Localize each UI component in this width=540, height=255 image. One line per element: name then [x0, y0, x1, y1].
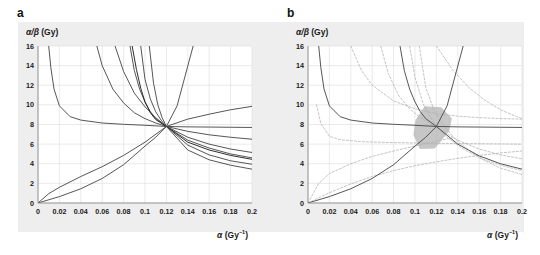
- x-tick-label: 0.18: [494, 207, 508, 216]
- x-tick-label: 0.12: [429, 207, 443, 216]
- y-tick-label: 0: [300, 199, 304, 208]
- y-tick-label: 8: [30, 120, 34, 129]
- panel-a: a α/β (Gy) α (Gy−1) 024681012141600.020.…: [0, 0, 270, 255]
- panel-b-plot: 024681012141600.020.040.060.080.10.120.1…: [270, 0, 540, 255]
- x-tick-label: 0.14: [181, 207, 195, 216]
- x-tick-label: 0: [36, 207, 40, 216]
- y-tick-label: 10: [26, 100, 34, 109]
- panel-a-plot: 024681012141600.020.040.060.080.10.120.1…: [0, 0, 270, 255]
- y-tick-label: 12: [296, 81, 304, 90]
- y-tick-label: 0: [30, 199, 34, 208]
- x-tick-label: 0.02: [52, 207, 66, 216]
- x-tick-label: 0.18: [224, 207, 238, 216]
- y-tick-label: 4: [300, 159, 304, 168]
- y-tick-label: 14: [26, 61, 34, 70]
- x-tick-label: 0.08: [387, 207, 401, 216]
- x-tick-label: 0.16: [472, 207, 486, 216]
- x-tick-label: 0.08: [117, 207, 131, 216]
- y-tick-label: 6: [300, 140, 304, 149]
- x-tick-label: 0.14: [451, 207, 465, 216]
- x-tick-label: 0.2: [247, 207, 257, 216]
- x-tick-label: 0.04: [344, 207, 358, 216]
- x-tick-label: 0.04: [74, 207, 88, 216]
- y-tick-label: 6: [30, 140, 34, 149]
- x-tick-label: 0.06: [95, 207, 109, 216]
- y-tick-label: 8: [300, 120, 304, 129]
- y-tick-label: 4: [30, 159, 34, 168]
- x-tick-label: 0: [306, 207, 310, 216]
- x-tick-label: 0.02: [322, 207, 336, 216]
- x-tick-label: 0.16: [202, 207, 216, 216]
- y-tick-label: 10: [296, 100, 304, 109]
- x-tick-label: 0.1: [140, 207, 150, 216]
- x-tick-label: 0.06: [365, 207, 379, 216]
- x-tick-label: 0.12: [159, 207, 173, 216]
- y-tick-label: 2: [30, 179, 34, 188]
- y-tick-label: 2: [300, 179, 304, 188]
- figure-root: a α/β (Gy) α (Gy−1) 024681012141600.020.…: [0, 0, 540, 255]
- x-tick-label: 0.2: [517, 207, 527, 216]
- panel-b: b α/β (Gy) α (Gy−1) 024681012141600.020.…: [270, 0, 540, 255]
- x-tick-label: 0.1: [410, 207, 420, 216]
- y-tick-label: 14: [296, 61, 304, 70]
- y-tick-label: 16: [296, 42, 304, 51]
- y-tick-label: 12: [26, 81, 34, 90]
- y-tick-label: 16: [26, 42, 34, 51]
